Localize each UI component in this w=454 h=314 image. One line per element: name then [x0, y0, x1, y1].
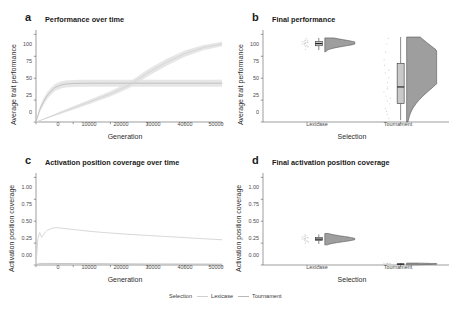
panel-a-ytick-3: 75 — [12, 58, 32, 64]
legend-title: Selection — [169, 293, 192, 299]
panel-d-xlabel: Selection — [282, 276, 422, 283]
panel-a-tag: a — [25, 11, 31, 23]
legend: Selection Lexicase Tournament — [169, 293, 282, 299]
legend-label-tournament: Tournament — [252, 293, 282, 299]
panel-c-title: Activation position coverage over time — [45, 158, 179, 167]
panel-b-tag: b — [252, 11, 259, 23]
panel-c-ytick-1: 0.25 — [8, 235, 32, 241]
panel-c-ytick-3: 0.75 — [8, 201, 32, 207]
legend-label-lexicase: Lexicase — [211, 293, 233, 299]
legend-key-tournament[interactable]: Tournament — [238, 293, 282, 299]
panel-a-ytick-0: 0 — [12, 109, 32, 115]
panel-c-xlabel: Generation — [55, 276, 195, 283]
panel-c-tag: c — [25, 154, 31, 166]
panel-c: c Activation position coverage over time… — [0, 146, 227, 292]
panel-d-ytick-2: 0.50 — [235, 218, 259, 224]
panel-b-plot — [263, 30, 449, 122]
panel-b-ytick-4: 100 — [239, 41, 259, 47]
panel-a-ytick-1: 25 — [12, 92, 32, 98]
panel-d-plot — [263, 173, 449, 265]
panel-d: d Final activation position coverage Act… — [227, 146, 454, 292]
panel-a: a Performance over time Average trait pe… — [0, 0, 227, 146]
panel-b-xlabel: Selection — [282, 133, 422, 140]
panel-c-ytick-4: 1.00 — [8, 184, 32, 190]
panel-c-ytick-2: 0.50 — [8, 218, 32, 224]
legend-key-lexicase[interactable]: Lexicase — [197, 293, 233, 299]
panel-b-ytick-2: 50 — [239, 75, 259, 81]
panel-b-ytick-3: 75 — [239, 58, 259, 64]
panel-b-ytick-0: 0 — [239, 109, 259, 115]
panel-c-plot — [36, 173, 222, 265]
panel-a-xlabel: Generation — [55, 133, 195, 140]
panel-d-tag: d — [252, 154, 259, 166]
legend-swatch-lexicase — [197, 296, 208, 297]
panel-a-title: Performance over time — [45, 15, 124, 24]
panel-d-ytick-4: 1.00 — [235, 184, 259, 190]
panel-b: b Final performance Average trait perfor… — [227, 0, 454, 146]
panel-d-ytick-1: 0.25 — [235, 235, 259, 241]
legend-swatch-tournament — [238, 296, 249, 297]
panel-a-ytick-4: 100 — [12, 41, 32, 47]
panel-a-ytick-2: 50 — [12, 75, 32, 81]
panel-c-ytick-0: 0.00 — [8, 252, 32, 258]
panel-a-plot — [36, 30, 222, 122]
panel-d-ytick-3: 0.75 — [235, 201, 259, 207]
panel-b-title: Final performance — [272, 15, 335, 24]
figure-root: a Performance over time Average trait pe… — [0, 0, 454, 314]
panel-b-ytick-1: 25 — [239, 92, 259, 98]
panel-d-title: Final activation position coverage — [272, 158, 390, 167]
panel-d-ytick-0: 0.00 — [235, 252, 259, 258]
